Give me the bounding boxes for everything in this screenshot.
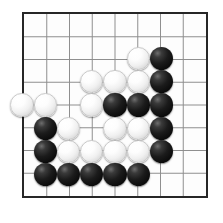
go-board[interactable] (22, 12, 208, 198)
go-board-screenshot (0, 0, 223, 223)
board-grid-lines (24, 14, 206, 196)
